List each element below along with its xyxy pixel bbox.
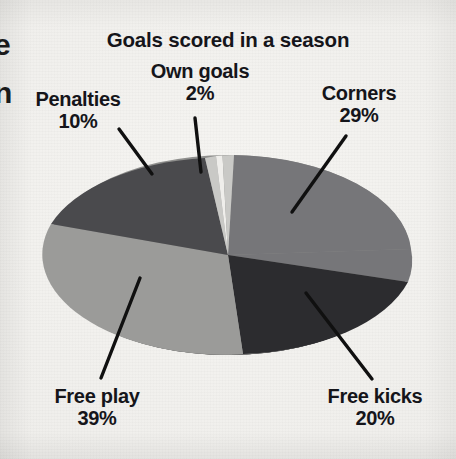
- pie-slice-corners: [228, 155, 411, 255]
- pie-label-own-goals: Own goals 2%: [130, 60, 270, 105]
- pie-label-free-kicks-value: 20%: [300, 407, 450, 429]
- pie-label-corners-value: 29%: [294, 104, 424, 126]
- pie-top-face: [42, 155, 412, 355]
- pie-label-penalties: Penalties 10%: [18, 88, 138, 133]
- pie-label-free-kicks-name: Free kicks: [328, 385, 423, 407]
- scanned-page: e n Goals scored in a season: [0, 0, 456, 459]
- pie-label-own-goals-value: 2%: [130, 82, 270, 104]
- pie-label-penalties-value: 10%: [18, 110, 138, 132]
- pie-label-penalties-name: Penalties: [35, 88, 120, 110]
- pie-label-free-play-name: Free play: [54, 385, 139, 407]
- pie-label-own-goals-name: Own goals: [151, 60, 249, 82]
- pie-label-free-play-value: 39%: [22, 407, 172, 429]
- leader-line-penalties: [119, 129, 152, 174]
- pie-label-corners-name: Corners: [322, 82, 397, 104]
- pie-label-free-play: Free play 39%: [22, 385, 172, 430]
- pie-label-free-kicks: Free kicks 20%: [300, 385, 450, 430]
- pie-label-corners: Corners 29%: [294, 82, 424, 127]
- pie-3d-body: [42, 155, 412, 355]
